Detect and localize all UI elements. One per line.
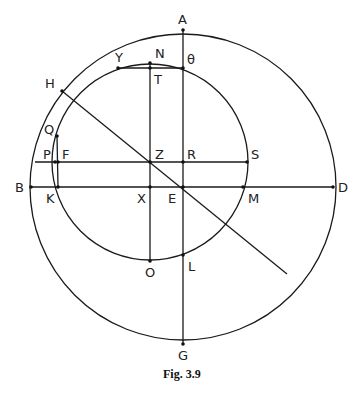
point-S — [245, 160, 249, 164]
label-A: A — [178, 12, 187, 27]
label-D: D — [338, 180, 348, 195]
point-M — [241, 185, 245, 189]
label-G: G — [178, 348, 188, 363]
line-H-Z-E — [62, 91, 287, 274]
point-Z — [148, 160, 152, 164]
point-R — [181, 160, 185, 164]
label-Z: Z — [155, 147, 164, 162]
point-A — [181, 28, 185, 32]
point-theta — [181, 66, 185, 70]
point-T — [148, 66, 152, 70]
label-Q: Q — [44, 122, 54, 137]
point-H — [60, 89, 64, 93]
label-S: S — [251, 147, 259, 162]
point-F — [56, 160, 60, 164]
point-E — [181, 185, 185, 189]
label-F: F — [62, 147, 69, 162]
figure-caption: Fig. 3.9 — [163, 367, 201, 381]
label-theta: θ — [187, 52, 195, 67]
label-R: R — [187, 147, 196, 162]
label-N: N — [155, 46, 165, 61]
point-X — [148, 185, 152, 189]
point-O — [148, 259, 152, 263]
label-O: O — [145, 265, 155, 280]
label-M: M — [248, 191, 259, 206]
geometry-figure: A N θ Y T H Q P F Z R S B K X E M D O L … — [0, 0, 361, 394]
point-Y — [116, 66, 120, 70]
label-B: B — [15, 180, 24, 195]
label-L: L — [188, 259, 196, 274]
label-T: T — [153, 72, 162, 87]
label-H: H — [45, 76, 55, 91]
label-X: X — [137, 191, 146, 206]
label-Y: Y — [114, 50, 123, 65]
point-N — [148, 61, 152, 65]
point-B — [29, 185, 33, 189]
point-G — [181, 342, 185, 346]
point-Q — [55, 134, 59, 138]
point-K — [56, 185, 60, 189]
label-P: P — [43, 147, 51, 162]
label-E: E — [168, 191, 176, 206]
label-K: K — [46, 191, 55, 206]
point-L — [181, 253, 185, 257]
point-D — [331, 185, 335, 189]
